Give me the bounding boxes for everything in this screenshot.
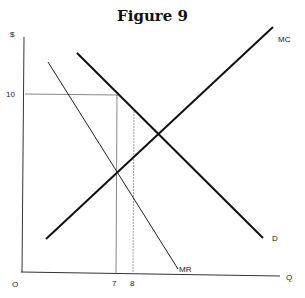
mc-curve — [46, 27, 273, 239]
origin-label: O — [12, 280, 18, 289]
mr-curve — [48, 62, 178, 269]
chart-canvas: $ 10 MC D MR Q O 7 8 — [0, 0, 305, 298]
x-axis-label: Q — [286, 273, 292, 282]
mr-label: MR — [179, 265, 192, 274]
x-axis — [21, 272, 280, 276]
y-axis — [22, 37, 24, 272]
q8-guide — [133, 111, 134, 274]
price-10-guide — [25, 94, 118, 95]
y-axis-label: $ — [10, 30, 15, 39]
y-tick-10: 10 — [6, 90, 15, 99]
mc-label: MC — [278, 35, 291, 44]
d-label: D — [272, 234, 278, 243]
x-tick-8: 8 — [130, 279, 135, 288]
q7-guide — [116, 95, 117, 274]
demand-curve — [77, 53, 263, 238]
x-tick-7: 7 — [112, 279, 117, 288]
